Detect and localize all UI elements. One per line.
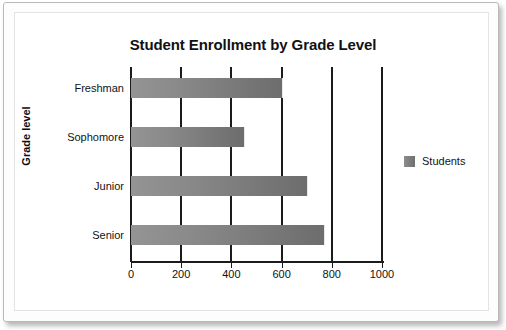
bar-freshman [131,78,283,98]
bar-sophomore [131,127,245,147]
gridline-800 [331,67,333,262]
chart-legend: Students [404,155,465,167]
chart-title: Student Enrollment by Grade Level [0,36,506,53]
bar-junior [131,176,308,196]
y-category-label-junior: Junior [14,180,124,192]
y-category-label-freshman: Freshman [14,82,124,94]
legend-swatch-students [404,156,415,167]
gridline-1000 [381,67,383,262]
plot-area [131,67,382,262]
y-category-label-sophomore: Sophomore [14,131,124,143]
bar-senior [131,225,325,245]
y-category-label-senior: Senior [14,229,124,241]
chart-screenshot: Student Enrollment by Grade Level Grade … [0,0,506,330]
legend-label-students: Students [422,155,465,167]
x-tick-label-1000: 1000 [352,268,412,280]
x-axis-baseline [131,261,384,263]
